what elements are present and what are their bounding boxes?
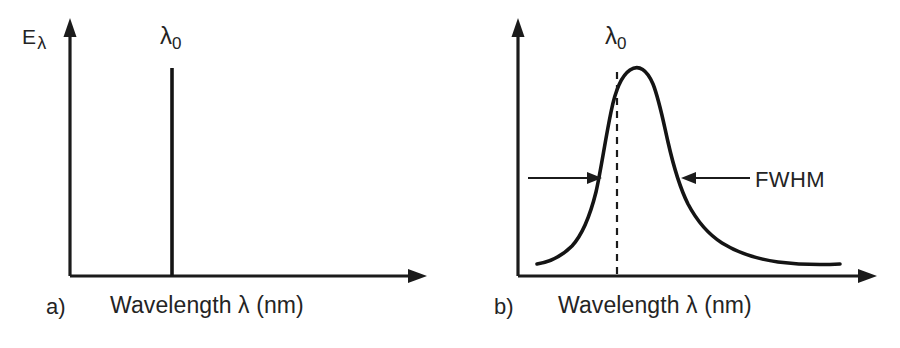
y-axis-label: Eλ <box>22 25 45 49</box>
fwhm-annotation-label: FWHM <box>755 167 825 193</box>
x-axis-label: Wavelength λ (nm) <box>558 292 752 319</box>
y-axis-label-text: E <box>22 25 36 48</box>
y-axis-arrowhead <box>512 18 525 37</box>
panel-a: Eλ λ0 a) Wavelength λ (nm) <box>0 0 450 348</box>
peak-wavelength-label: λ0 <box>160 22 181 50</box>
peak-wavelength-symbol: λ <box>605 22 617 49</box>
peak-wavelength-subscript: 0 <box>617 34 626 53</box>
x-axis-arrowhead <box>858 269 877 283</box>
panel-b: Eλ λ0 FWHM b) Wavelength λ (nm) <box>450 0 900 348</box>
peak-wavelength-symbol: λ <box>160 22 172 49</box>
panel-b-tag: b) <box>494 294 514 320</box>
fwhm-right-arrowhead <box>681 172 696 184</box>
y-axis-label-subscript: λ <box>37 33 46 53</box>
y-axis-arrowhead <box>64 18 77 37</box>
panel-a-tag: a) <box>46 294 66 320</box>
x-axis-arrowhead <box>408 269 427 283</box>
peak-wavelength-subscript: 0 <box>172 34 181 53</box>
x-axis-label: Wavelength λ (nm) <box>110 292 304 319</box>
peak-wavelength-label: λ0 <box>605 22 626 50</box>
spectral-line-figure: Eλ λ0 a) Wavelength λ (nm) <box>0 0 900 348</box>
